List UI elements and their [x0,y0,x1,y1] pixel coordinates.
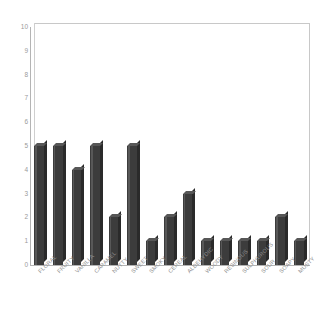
bar[interactable] [34,146,44,265]
bar[interactable] [53,146,63,265]
bar-highlight [276,217,278,265]
bar-side-face [63,140,66,262]
bar[interactable] [90,146,100,265]
bar-side-face [44,140,47,262]
bar[interactable] [146,241,156,265]
bar-chart: 012345678910 FLORALFRUITYVANILLACARAMELN… [0,0,330,327]
bar[interactable] [127,146,137,265]
bar-side-face [137,140,140,262]
bar-front-face [90,146,100,265]
bar-front-face [34,146,44,265]
bar-side-face [81,164,84,262]
bar-front-face [275,217,285,265]
bar-highlight [73,170,75,265]
bar-highlight [128,146,130,265]
bar-front-face [72,170,82,265]
bar-highlight [91,146,93,265]
bar-front-face [53,146,63,265]
bar[interactable] [220,241,230,265]
bar-front-face [220,241,230,265]
bar-highlight [295,241,297,265]
bar[interactable] [294,241,304,265]
bar-highlight [35,146,37,265]
bars-container [0,0,330,327]
bar-highlight [54,146,56,265]
bar-front-face [146,241,156,265]
bar-side-face [174,211,177,262]
bar-side-face [192,188,195,262]
bar-front-face [127,146,137,265]
bar-front-face [294,241,304,265]
bar[interactable] [72,170,82,265]
bar-side-face [285,211,288,262]
bar-side-face [118,211,121,262]
bar-side-face [100,140,103,262]
bar[interactable] [275,217,285,265]
